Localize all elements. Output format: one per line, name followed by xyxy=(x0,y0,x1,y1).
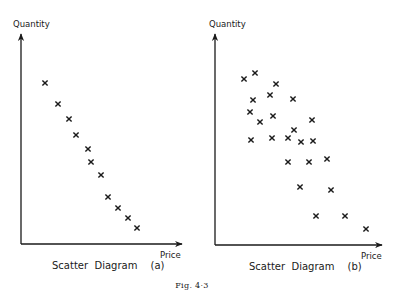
caption-b-tag: (b) xyxy=(348,261,362,272)
y-axis-label-b: Quantity xyxy=(209,19,246,29)
x-marker-icon xyxy=(269,135,274,140)
x-marker-icon xyxy=(257,119,262,124)
x-marker-icon xyxy=(363,226,368,231)
x-marker-icon xyxy=(252,70,257,75)
x-marker-icon xyxy=(291,127,296,132)
scatter-diagram-a: Quantity Price Scatter Diagram (a) xyxy=(13,19,182,271)
data-points-b xyxy=(241,70,368,231)
x-marker-icon xyxy=(328,187,333,192)
x-marker-icon xyxy=(285,135,290,140)
x-marker-icon xyxy=(134,225,139,230)
x-marker-icon xyxy=(285,159,290,164)
scatter-diagram-b: Quantity Price Scatter Diagram (b) xyxy=(209,19,382,272)
data-points-a xyxy=(42,80,139,230)
x-marker-icon xyxy=(115,205,120,210)
x-marker-icon xyxy=(248,137,253,142)
x-marker-icon xyxy=(250,97,255,102)
caption-a-main: Scatter Diagram xyxy=(52,260,137,271)
x-marker-icon xyxy=(247,109,252,114)
x-marker-icon xyxy=(290,96,295,101)
caption-b: Scatter Diagram (b) xyxy=(249,261,362,272)
caption-a-tag: (a) xyxy=(151,260,165,271)
x-axis-label-b: Price xyxy=(361,251,382,261)
caption-b-main: Scatter Diagram xyxy=(249,261,334,272)
x-marker-icon xyxy=(241,76,246,81)
x-marker-icon xyxy=(297,184,302,189)
x-marker-icon xyxy=(267,92,272,97)
x-marker-icon xyxy=(342,213,347,218)
x-marker-icon xyxy=(73,132,78,137)
x-marker-icon xyxy=(66,116,71,121)
figure-canvas: Quantity Price Scatter Diagram (a) Quant… xyxy=(0,0,396,299)
x-marker-icon xyxy=(55,101,60,106)
x-marker-icon xyxy=(42,80,47,85)
x-marker-icon xyxy=(273,81,278,86)
x-marker-icon xyxy=(125,215,130,220)
x-marker-icon xyxy=(105,194,110,199)
x-axis-label-a: Price xyxy=(160,250,181,260)
x-marker-icon xyxy=(306,159,311,164)
x-marker-icon xyxy=(85,146,90,151)
x-marker-icon xyxy=(313,213,318,218)
caption-a: Scatter Diagram (a) xyxy=(52,260,165,271)
figure-label: Fig. 4·3 xyxy=(175,281,208,290)
x-marker-icon xyxy=(310,138,315,143)
x-marker-icon xyxy=(298,139,303,144)
x-marker-icon xyxy=(309,117,314,122)
y-axis-label-a: Quantity xyxy=(13,19,50,29)
x-marker-icon xyxy=(324,156,329,161)
x-marker-icon xyxy=(270,113,275,118)
x-marker-icon xyxy=(88,159,93,164)
x-marker-icon xyxy=(98,172,103,177)
